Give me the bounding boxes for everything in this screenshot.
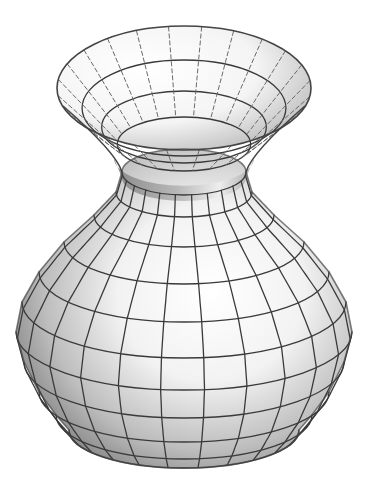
vase-body-surface	[16, 149, 352, 468]
vase-wireframe-figure	[0, 0, 369, 489]
